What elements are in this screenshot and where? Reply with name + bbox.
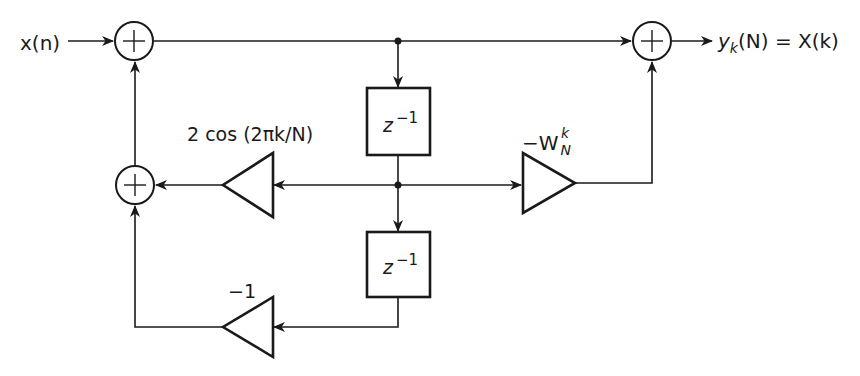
gain-cos-label: 2 cos (2πk/N) [187,123,313,145]
gain-twiddle-triangle [523,153,575,213]
sum-input [115,22,153,60]
gain-minus-one-label: −1 [228,280,256,302]
output-label: yk(N) = X(k) [717,29,839,56]
wire-gain-twiddle-out [575,62,652,183]
wire-delay-2-out [274,297,398,327]
input-label: x(n) [20,31,60,55]
sum-output [633,22,671,60]
gain-cos-triangle [223,153,273,217]
gain-minus-one-triangle [223,297,273,357]
sum-feedback [116,166,154,204]
gain-twiddle-label: −WNk [522,125,572,158]
wire-gain-minus-one-out [135,206,223,327]
goertzel-diagram: z−1 z−1 2 cos (2πk/N) −WNk −1 x(n) [0,0,860,376]
